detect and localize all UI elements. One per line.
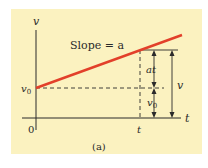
v0-label: v0 — [21, 83, 31, 96]
v0-arrow-up-icon — [152, 88, 157, 94]
t-tick-label: t — [137, 124, 142, 135]
v-arrow-up-icon — [170, 50, 175, 56]
figure-caption: (a) — [92, 141, 106, 152]
slope-annotation: Slope = a — [70, 39, 124, 52]
at-label: at — [146, 64, 157, 75]
v-arrow-down-icon — [170, 112, 175, 118]
origin-label: 0 — [28, 124, 34, 135]
at-arrow-down-icon — [152, 82, 157, 88]
v-axis-label: v — [33, 15, 40, 28]
v0-arrow-down-icon — [152, 112, 157, 118]
v0-segment-label: v0 — [147, 97, 157, 110]
v-total-label: v — [177, 79, 184, 92]
velocity-time-graph: v t 0 v0 t Slope = a at v0 v (a) — [0, 0, 208, 168]
at-arrow-up-icon — [152, 50, 157, 56]
t-axis-label: t — [185, 112, 190, 125]
